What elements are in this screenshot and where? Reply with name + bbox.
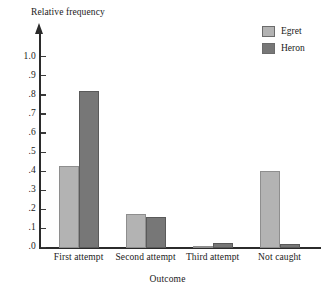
- y-axis-tick-label: 1.0: [6, 52, 36, 62]
- x-axis-label-second-attempt: Second attempt: [115, 253, 175, 263]
- x-axis-line: [39, 247, 321, 249]
- bar-egret-second-attempt: [126, 214, 146, 247]
- x-axis-label-not-caught: Not caught: [258, 253, 301, 263]
- y-axis-tick-label: .5: [6, 147, 36, 157]
- y-axis-tick-label: .1: [6, 224, 36, 234]
- y-axis-tick-label: .8: [6, 90, 36, 100]
- x-axis-title: Outcome: [0, 274, 335, 284]
- y-axis-tick-label: .2: [6, 205, 36, 215]
- bar-egret-not-caught: [260, 171, 280, 247]
- bar-heron-second-attempt: [146, 217, 166, 247]
- legend: Egret Heron: [262, 24, 305, 58]
- legend-label-egret: Egret: [281, 27, 302, 37]
- y-axis-tick-label: .7: [6, 109, 36, 119]
- x-axis-label-first-attempt: First attempt: [54, 253, 104, 263]
- y-axis-tick-label: .9: [6, 71, 36, 81]
- bar-heron-first-attempt: [79, 91, 99, 247]
- bar-chart: Relative frequency 1.0.9.8.7.6.5.4.3.2.1…: [0, 0, 335, 296]
- y-axis-tick-label: .0: [6, 243, 36, 253]
- legend-label-heron: Heron: [281, 44, 305, 54]
- bar-egret-third-attempt: [193, 246, 213, 248]
- y-axis-tick-label: .4: [6, 166, 36, 176]
- bar-heron-not-caught: [280, 244, 300, 248]
- bars-layer: [41, 30, 321, 248]
- bar-heron-third-attempt: [213, 243, 233, 248]
- y-axis-tick-label: .3: [6, 185, 36, 195]
- legend-item-heron: Heron: [262, 41, 305, 56]
- y-axis-title: Relative frequency: [31, 7, 105, 17]
- legend-item-egret: Egret: [262, 24, 305, 39]
- x-axis-label-third-attempt: Third attempt: [186, 253, 239, 263]
- y-axis-tick-label: .6: [6, 128, 36, 138]
- legend-swatch-heron: [262, 43, 275, 54]
- legend-swatch-egret: [262, 26, 275, 37]
- bar-egret-first-attempt: [59, 166, 79, 248]
